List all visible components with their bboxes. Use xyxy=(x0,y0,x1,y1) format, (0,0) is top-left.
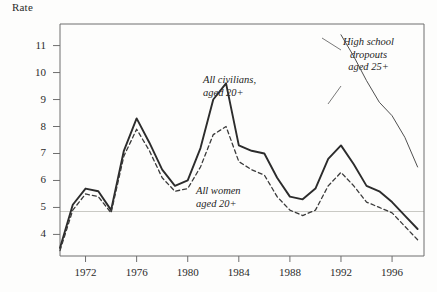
data-series xyxy=(60,35,418,251)
series-line xyxy=(341,35,418,167)
plot-area xyxy=(0,0,437,292)
axis-ticks xyxy=(53,46,392,262)
series-line xyxy=(60,83,418,248)
plot-frame xyxy=(60,24,424,256)
chart-figure: Rate 11 10 9 8 7 6 5 4 1972 1976 1980 19… xyxy=(0,0,437,292)
annotation-leader-lines xyxy=(322,38,341,104)
